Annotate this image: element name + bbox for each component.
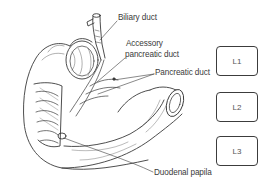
vertebra-box-l1: L1 [216, 46, 258, 76]
vertebra-box-l2: L2 [216, 92, 258, 122]
label-duodenal-papilla: Duodenal papila [154, 168, 212, 178]
label-pancreatic-duct: Pancreatic duct [155, 68, 210, 78]
ascending-duodenum [62, 87, 187, 168]
label-biliary-duct: Biliary duct [118, 13, 157, 23]
label-accessory-pancreatic-duct: pancreatic duct [125, 50, 179, 60]
descending-duodenum-folds [34, 83, 66, 147]
vertebra-label-l2: L2 [233, 103, 242, 112]
label-accessory-line1: Accessory [126, 39, 163, 49]
vertebra-box-l3: L3 [216, 136, 258, 166]
vertebra-label-l3: L3 [233, 147, 242, 156]
vertebra-label-l1: L1 [233, 57, 242, 66]
